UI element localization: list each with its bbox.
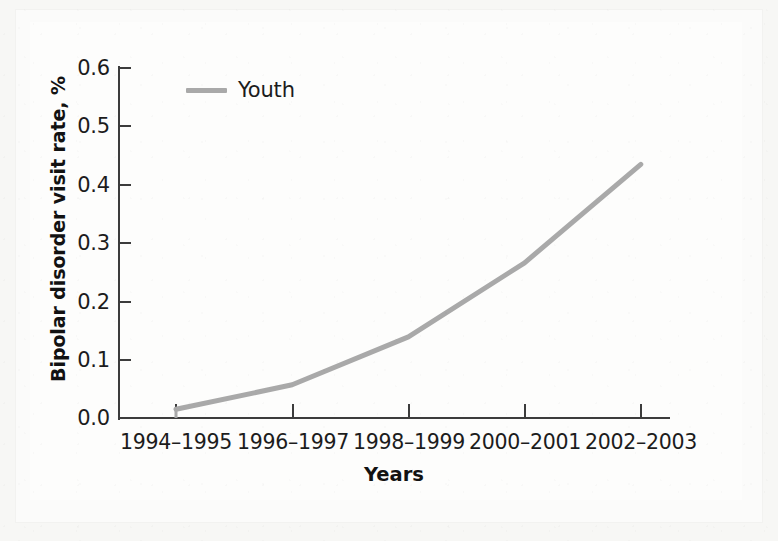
x-tick-mark-1996-1997 — [292, 404, 294, 418]
x-tick-label-1998-1999: 1998–1999 — [353, 430, 465, 454]
y-tick-mark-0.6 — [120, 67, 131, 69]
x-tick-label-1994-1995: 1994–1995 — [120, 430, 232, 454]
y-tick-label-0.2: 0.2 — [62, 290, 110, 314]
y-tick-label-0.3: 0.3 — [62, 231, 110, 255]
x-tick-mark-1998-1999 — [408, 404, 410, 418]
legend-line-swatch-youth — [186, 88, 227, 93]
x-axis-tick-label-group: 1994–1995 1996–1997 1998–1999 2000–2001 … — [0, 430, 778, 460]
figure-root: Bipolar disorder visit rate, % 0.6 0.5 0… — [0, 0, 778, 541]
y-tick-label-0.0: 0.0 — [62, 406, 110, 430]
x-tick-label-2000-2001: 2000–2001 — [469, 430, 581, 454]
legend: Youth — [186, 78, 295, 102]
y-tick-label-0.5: 0.5 — [62, 114, 110, 138]
y-tick-mark-0.2 — [120, 301, 131, 303]
y-tick-label-0.1: 0.1 — [62, 348, 110, 372]
y-tick-label-0.6: 0.6 — [62, 56, 110, 80]
legend-label-youth: Youth — [238, 78, 295, 102]
x-axis-line — [118, 417, 670, 419]
figure-canvas — [30, 22, 742, 500]
x-tick-label-1996-1997: 1996–1997 — [237, 430, 349, 454]
y-tick-mark-0.3 — [120, 242, 131, 244]
x-tick-label-2002-2003: 2002–2003 — [585, 430, 697, 454]
x-tick-mark-2000-2001 — [524, 404, 526, 418]
x-tick-mark-2002-2003 — [640, 404, 642, 418]
y-tick-mark-0.5 — [120, 125, 131, 127]
y-tick-mark-0.1 — [120, 359, 131, 361]
y-tick-mark-0.4 — [120, 184, 131, 186]
x-tick-mark-1994-1995 — [175, 404, 177, 418]
x-axis-title: Years — [118, 463, 670, 486]
y-tick-label-0.4: 0.4 — [62, 173, 110, 197]
